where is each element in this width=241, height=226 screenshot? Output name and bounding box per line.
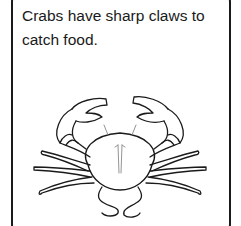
crab-illustration bbox=[20, 95, 220, 220]
card-caption: Crabs have sharp claws to catch food. bbox=[22, 4, 227, 52]
